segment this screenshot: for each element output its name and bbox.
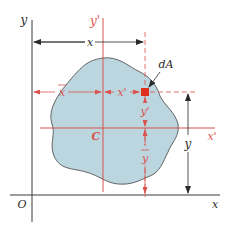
dim-y-prime-label: y': [139, 105, 149, 118]
y-axis-label: y: [20, 13, 28, 27]
dim-x-label: x: [87, 36, 94, 49]
parallel-axis-diagram: x x x' dA y' y y y x O y' x' C: [0, 0, 230, 226]
dim-x-prime-label: x': [117, 86, 126, 99]
dA-label: dA: [159, 58, 174, 71]
dim-y-bar-label: y: [141, 152, 149, 165]
y-prime-axis-label: y': [89, 14, 100, 28]
area-shape: [51, 58, 178, 184]
dim-y-label: y: [184, 137, 192, 151]
element-dA: [141, 88, 149, 96]
x-axis-label: x: [212, 198, 219, 211]
origin-label: O: [17, 198, 26, 211]
x-prime-axis-label: x': [207, 130, 216, 143]
centroid-label: C: [92, 130, 101, 143]
dim-x-bar-label: x: [59, 86, 66, 99]
